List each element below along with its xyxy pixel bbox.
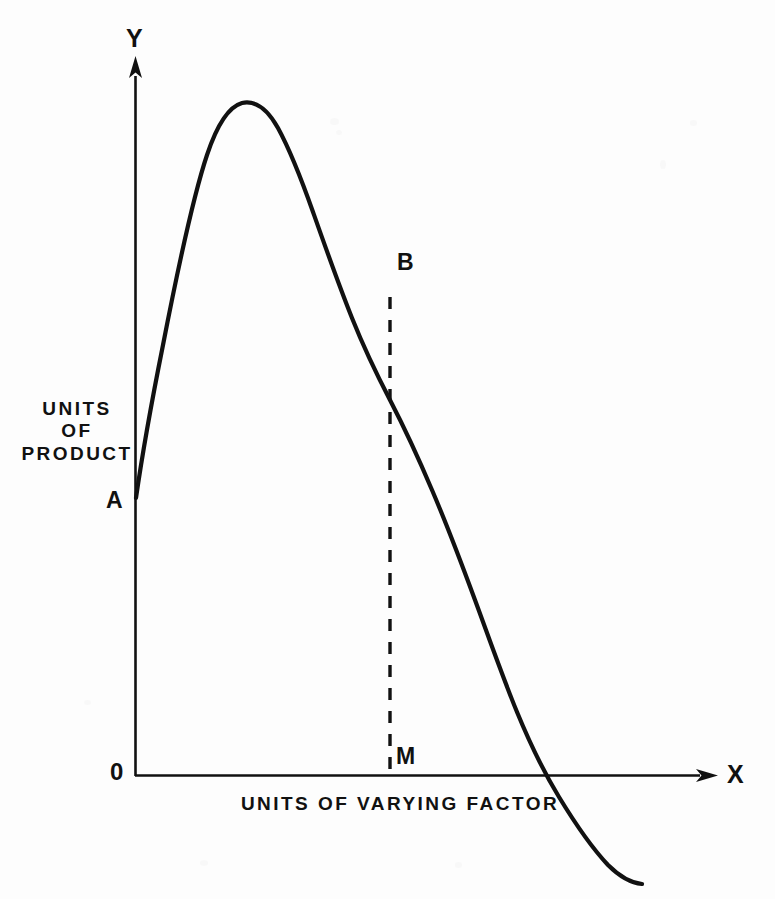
x-axis-title: UNITS OF VARYING FACTOR <box>150 793 650 815</box>
point-a-label: A <box>106 487 124 514</box>
y-axis-title: UNITS OF PRODUCT <box>18 398 136 465</box>
x-axis-name-label: X <box>727 760 745 790</box>
point-m-label: M <box>396 743 416 770</box>
chart-figure: Y X 0 UNITS OF PRODUCT UNITS OF VARYING … <box>0 0 775 899</box>
point-b-label: B <box>397 249 415 276</box>
y-axis-name-label: Y <box>126 24 144 54</box>
origin-label: 0 <box>110 758 125 786</box>
x-axis <box>135 769 718 782</box>
